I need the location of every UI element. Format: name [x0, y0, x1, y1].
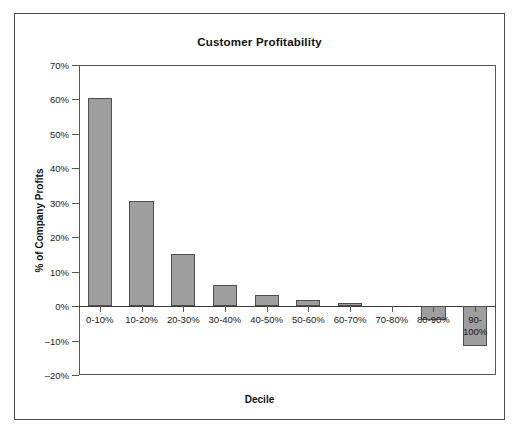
bar: [213, 285, 237, 306]
x-axis-tick: [475, 306, 476, 312]
y-axis-tick-label: 0%: [55, 301, 69, 312]
x-axis-tick: [267, 306, 268, 312]
bar: [88, 98, 112, 306]
x-axis-tick-label: 40-50%: [250, 314, 283, 326]
x-axis-tick: [225, 306, 226, 312]
y-axis-tick-label: 20%: [50, 232, 69, 243]
x-axis-tick: [350, 306, 351, 312]
y-axis-tick-label: 60%: [50, 94, 69, 105]
y-axis-tick: [72, 306, 79, 307]
chart-frame: Customer Profitability % of Company Prof…: [14, 13, 505, 420]
y-axis-tick-label: 70%: [50, 60, 69, 71]
y-axis-tick-label: –20%: [45, 370, 69, 381]
x-axis-tick-label: 90- 100%: [463, 314, 487, 337]
y-axis-tick-label: –10%: [45, 335, 69, 346]
x-axis-tick-label: 50-60%: [292, 314, 325, 326]
x-axis-tick: [308, 306, 309, 312]
chart-title: Customer Profitability: [15, 36, 504, 48]
x-axis-tick-label: 80-90%: [417, 314, 450, 326]
y-axis-tick-label: 10%: [50, 266, 69, 277]
x-axis-tick: [183, 306, 184, 312]
y-axis-tick-label: 30%: [50, 197, 69, 208]
x-axis-tick: [142, 306, 143, 312]
bar: [171, 254, 195, 306]
x-axis-tick: [392, 306, 393, 312]
x-axis-tick-label: 60-70%: [334, 314, 367, 326]
x-axis-tick: [100, 306, 101, 312]
y-axis-tick: [72, 99, 79, 100]
x-axis-tick-label: 30-40%: [209, 314, 242, 326]
x-axis-tick-label: 10-20%: [125, 314, 158, 326]
y-axis-tick: [72, 134, 79, 135]
x-axis-tick-label: 70-80%: [375, 314, 408, 326]
y-axis-tick: [72, 237, 79, 238]
y-axis-tick: [72, 203, 79, 204]
y-axis-tick: [72, 341, 79, 342]
y-axis-tick: [72, 168, 79, 169]
x-axis-tick-label: 20-30%: [167, 314, 200, 326]
y-axis-title-label: % of Company Profits: [35, 168, 46, 272]
y-axis-tick: [72, 65, 79, 66]
bar: [255, 295, 279, 306]
x-axis-title: Decile: [15, 394, 504, 405]
y-axis-title: % of Company Profits: [33, 65, 47, 375]
y-axis-tick-label: 50%: [50, 128, 69, 139]
y-axis-tick: [72, 375, 79, 376]
y-axis-tick: [72, 272, 79, 273]
x-axis-tick: [433, 306, 434, 312]
x-axis-tick-label: 0-10%: [86, 314, 113, 326]
plot-area: 70%60%50%40%30%20%10%0%–10%–20% 0-10%10-…: [79, 65, 496, 375]
bar: [129, 201, 153, 306]
y-axis-tick-label: 40%: [50, 163, 69, 174]
